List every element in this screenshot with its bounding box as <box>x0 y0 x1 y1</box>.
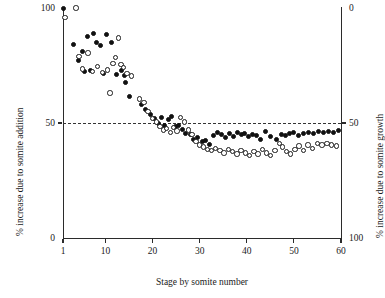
y-left-tick-label: 0 <box>29 233 55 243</box>
data-point-filled-circles <box>123 80 128 85</box>
data-point-open-circles <box>129 73 134 78</box>
x-tick-label: 10 <box>101 246 111 256</box>
data-point-open-circles <box>90 69 95 74</box>
y-left-tick-label: 100 <box>29 3 55 13</box>
data-point-open-circles <box>76 54 81 59</box>
x-tick-mark <box>62 239 63 243</box>
x-tick-label: 30 <box>195 246 205 256</box>
data-point-open-circles <box>168 130 173 135</box>
y-axis-right-title: % increase due to somite growth <box>375 114 385 238</box>
x-tick-mark <box>293 239 294 243</box>
data-point-open-circles <box>182 119 187 124</box>
x-tick-mark <box>340 239 341 243</box>
data-point-open-circles <box>110 61 115 66</box>
x-tick-mark <box>199 239 200 243</box>
data-point-open-circles <box>145 109 150 114</box>
data-point-filled-circles <box>263 129 268 134</box>
data-point-filled-circles <box>159 115 164 120</box>
data-point-open-circles <box>121 65 126 70</box>
data-point-open-circles <box>288 151 293 156</box>
x-tick-mark <box>152 239 153 243</box>
y-right-tick-mark <box>342 122 346 123</box>
data-point-open-circles <box>255 151 260 156</box>
x-tick-mark <box>246 239 247 243</box>
data-point-filled-circles <box>109 40 114 45</box>
data-point-filled-circles <box>85 34 90 39</box>
data-point-open-circles <box>268 153 273 158</box>
x-tick-label: 1 <box>61 246 66 256</box>
data-point-filled-circles <box>71 42 76 47</box>
data-point-open-circles <box>189 132 194 137</box>
data-point-open-circles <box>334 143 339 148</box>
x-axis-title: Stage by somite number <box>156 277 248 287</box>
data-point-filled-circles <box>114 72 119 77</box>
y-left-tick-mark <box>58 122 62 123</box>
data-point-filled-circles <box>306 130 311 135</box>
y-axis-left-title: % increase due to somite addition <box>15 108 25 236</box>
data-point-filled-circles <box>98 43 103 48</box>
data-point-open-circles <box>62 15 67 20</box>
data-point-filled-circles <box>169 114 174 119</box>
y-left-tick-label: 50 <box>29 118 55 128</box>
x-tick-label: 40 <box>242 246 252 256</box>
x-tick-label: 20 <box>148 246 158 256</box>
y-right-tick-label: 0 <box>349 3 354 13</box>
data-point-open-circles <box>95 64 100 69</box>
data-point-open-circles <box>174 128 179 133</box>
y-right-tick-label: 100 <box>349 233 363 243</box>
data-point-open-circles <box>116 35 121 40</box>
data-point-filled-circles <box>61 6 66 11</box>
plot-area <box>63 8 341 238</box>
data-point-filled-circles <box>311 131 316 136</box>
data-point-filled-circles <box>91 31 96 36</box>
x-tick-label: 50 <box>289 246 299 256</box>
data-point-open-circles <box>141 100 146 105</box>
data-point-open-circles <box>107 90 112 95</box>
data-point-filled-circles <box>258 137 263 142</box>
data-point-filled-circles <box>223 135 228 140</box>
data-point-open-circles <box>73 5 78 10</box>
data-point-open-circles <box>310 146 315 151</box>
data-point-open-circles <box>113 55 118 60</box>
x-tick-mark <box>105 239 106 243</box>
data-point-open-circles <box>301 148 306 153</box>
reference-line-50 <box>63 123 341 124</box>
data-point-open-circles <box>105 67 110 72</box>
data-point-filled-circles <box>104 32 109 37</box>
data-point-filled-circles <box>268 134 273 139</box>
data-point-filled-circles <box>127 94 132 99</box>
data-point-open-circles <box>272 148 277 153</box>
data-point-filled-circles <box>231 134 236 139</box>
y-right-tick-label: 50 <box>349 118 359 128</box>
data-point-filled-circles <box>76 58 81 63</box>
data-point-open-circles <box>85 50 90 55</box>
x-tick-label: 60 <box>336 246 346 256</box>
data-point-filled-circles <box>336 128 341 133</box>
